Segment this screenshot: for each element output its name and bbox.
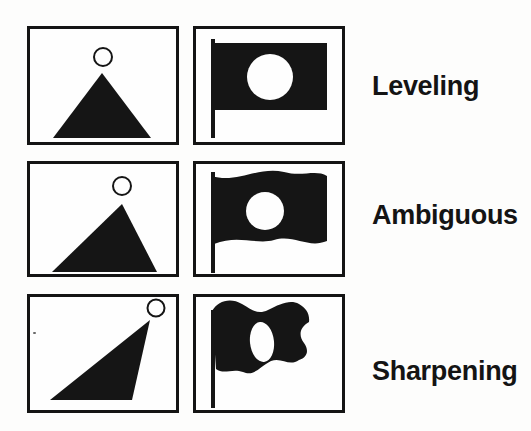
panel-ambiguous-flag <box>193 161 345 277</box>
panel-sharpening-flag <box>193 294 345 413</box>
flag-hole-circle <box>247 54 293 100</box>
flag-wavy-figure <box>196 164 342 274</box>
panel-sharpening-triangle <box>27 294 179 413</box>
circle-at-apex-icon <box>148 300 165 317</box>
flag-strongly-wavy-figure <box>196 297 342 410</box>
circle-above-apex-icon <box>94 48 112 66</box>
triangle-shape <box>52 204 157 272</box>
triangle-strongly-skewed-figure <box>30 297 176 410</box>
circle-above-apex-icon <box>113 177 131 195</box>
triangle-symmetric-figure <box>30 29 176 142</box>
leveling-sharpening-diagram: Leveling Ambiguous Sharpening <box>0 0 531 431</box>
panel-leveling-triangle <box>27 26 179 145</box>
triangle-shape <box>53 73 151 138</box>
flag-hole-circle <box>246 192 284 230</box>
print-speck <box>33 332 36 334</box>
panel-leveling-flag <box>193 26 345 145</box>
row-label-ambiguous: Ambiguous <box>372 201 518 231</box>
triangle-shape <box>50 320 150 400</box>
flag-rectangular-figure <box>196 29 342 142</box>
panel-ambiguous-triangle <box>27 161 179 277</box>
triangle-skewed-figure <box>30 164 176 274</box>
row-label-leveling: Leveling <box>372 72 479 102</box>
row-label-sharpening: Sharpening <box>372 357 518 387</box>
